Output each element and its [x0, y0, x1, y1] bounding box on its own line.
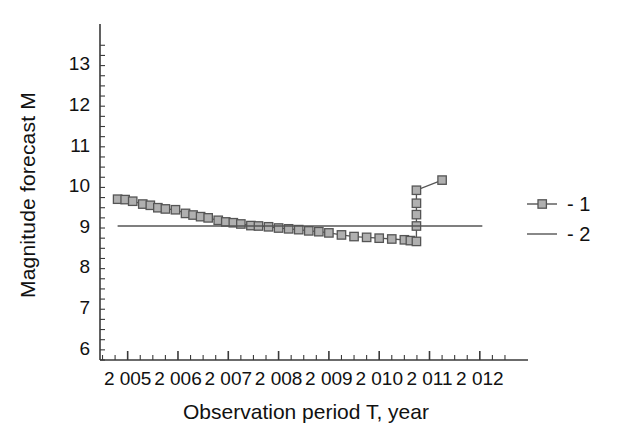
x-tick-label: 2 007 [205, 368, 253, 390]
data-point-marker [438, 176, 446, 184]
data-point-marker [305, 227, 313, 235]
data-point-marker [412, 186, 420, 194]
data-point-marker [315, 227, 323, 235]
y-tick-label: 6 [40, 338, 90, 360]
data-point-marker [388, 235, 396, 243]
y-axis-label: Magnitude forecast M [16, 92, 40, 298]
axes [100, 24, 528, 360]
legend [527, 200, 557, 234]
data-point-marker [337, 231, 345, 239]
x-tick-label: 2 011 [406, 368, 452, 390]
data-point-marker [264, 223, 272, 231]
y-tick-label: 12 [40, 94, 90, 116]
legend-entry-label: - 2 [567, 223, 590, 246]
chart-figure: Magnitude forecast M Observation period … [0, 0, 627, 443]
data-point-marker [204, 214, 212, 222]
x-axis-label: Observation period T, year [96, 400, 516, 424]
data-point-marker [412, 210, 420, 218]
x-tick-label: 2 008 [255, 368, 303, 390]
data-point-marker [412, 199, 420, 207]
data-point-marker [161, 205, 169, 213]
x-tick-label: 2 006 [154, 368, 202, 390]
data-point-marker [295, 225, 303, 233]
data-point-marker [350, 232, 358, 240]
data-point-marker [362, 233, 370, 241]
data-series [113, 176, 482, 246]
y-tick-label: 11 [40, 135, 90, 157]
data-point-marker [375, 234, 383, 242]
data-point-marker [129, 197, 137, 205]
y-tick-label: 10 [40, 175, 90, 197]
data-point-marker [412, 237, 420, 245]
legend-entry-label: - 1 [567, 193, 590, 216]
x-tick-label: 2 012 [456, 368, 504, 390]
data-point-marker [171, 206, 179, 214]
x-tick-label: 2 009 [305, 368, 353, 390]
data-point-marker [237, 220, 245, 228]
x-tick-label: 2 005 [104, 368, 152, 390]
data-point-marker [274, 224, 282, 232]
y-tick-label: 13 [40, 53, 90, 75]
y-tick-label: 9 [40, 216, 90, 238]
x-tick-label: 2 010 [355, 368, 403, 390]
data-point-marker [325, 229, 333, 237]
legend-marker-1 [538, 200, 546, 208]
y-tick-label: 8 [40, 256, 90, 278]
y-tick-label: 7 [40, 297, 90, 319]
